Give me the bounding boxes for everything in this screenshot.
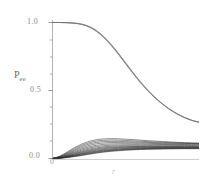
- chart-line-survival-upper-3: [53, 22, 200, 122]
- y-tick-label-0-0: 0.0: [29, 152, 40, 160]
- y-tick-label-1-0: 1.0: [27, 18, 38, 26]
- lower-curve-bundle: [53, 139, 200, 159]
- chart-line-survival-upper-2: [53, 22, 200, 122]
- chart-line-survival-upper-1: [53, 22, 200, 122]
- y-tick-label-0-5: 0.5: [30, 86, 41, 94]
- y-axis-label-subscript: ee: [20, 75, 26, 82]
- y-axis-label: Pee: [14, 70, 26, 83]
- upper-curve-bundle: [53, 22, 200, 122]
- x-tick-label-origin: 0: [50, 158, 54, 166]
- x-axis-label: r: [112, 168, 115, 176]
- y-axis-ticks: [49, 23, 53, 159]
- chart-figure: 1.0 0.5 0.0 0 Pee r: [0, 0, 207, 182]
